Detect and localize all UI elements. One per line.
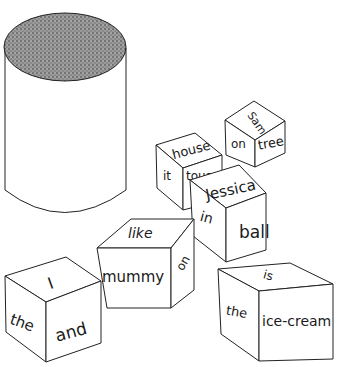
cylinder-container — [4, 13, 126, 213]
illustration: house it tous Sam on tree Jessica in bal… — [0, 0, 341, 367]
cube-jessica: Jessica in ball — [190, 165, 270, 262]
cube-is: is the ice-cream — [218, 263, 333, 361]
stippled-lid — [4, 13, 126, 81]
cube-is-right: ice-cream — [262, 313, 331, 329]
cube-like: like mummy on — [97, 219, 194, 308]
cube-house-left: it — [163, 169, 171, 183]
cube-i: I the and — [5, 257, 101, 362]
cube-like-left: mummy — [102, 268, 164, 286]
cube-like-top: like — [128, 225, 153, 241]
cube-sam: Sam on tree — [225, 101, 285, 167]
cube-jessica-right: ball — [239, 222, 270, 242]
cube-sam-left: on — [231, 137, 246, 151]
